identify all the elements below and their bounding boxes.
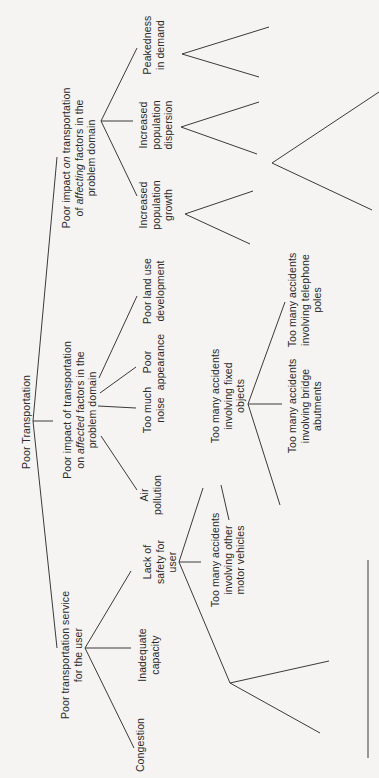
node-label-line: Too much bbox=[141, 387, 154, 433]
node-label-line: Poor impact of transportation bbox=[61, 341, 74, 479]
node-label-line: abutments bbox=[311, 359, 324, 454]
node-label-line: Congestion bbox=[134, 718, 147, 772]
edge-root-spine-lower bbox=[33, 421, 57, 648]
node-label-line: Too many accidents bbox=[286, 253, 299, 348]
node-label-line: of affecting factors in the bbox=[73, 88, 86, 229]
edge-growth-chevron bbox=[185, 191, 253, 244]
node-label-line: Peakedness bbox=[141, 16, 154, 75]
node-label-line: Lack of bbox=[141, 540, 154, 584]
node-label-line: population bbox=[150, 180, 163, 229]
fault-tree-diagram: Poor Transportation Poor impact on trans… bbox=[0, 0, 379, 778]
node-label-line: involving telephone bbox=[299, 253, 312, 348]
edge-affected-to-appearance bbox=[100, 367, 136, 393]
edge-safety-to-fixed-objects bbox=[179, 488, 203, 562]
edge-safety-sub-chevron bbox=[230, 661, 329, 733]
node-label: Poor Transportation bbox=[20, 375, 33, 469]
node-label-line: Too many accidents bbox=[209, 513, 222, 608]
edge-dispersion-chevron bbox=[181, 102, 259, 154]
node-label-line: dispersion bbox=[162, 100, 175, 149]
node-label-line: Increased bbox=[137, 100, 150, 149]
node-label-line: population bbox=[150, 100, 163, 149]
edge-root-spine-upper bbox=[33, 157, 57, 421]
node-label-line: in demand bbox=[153, 16, 166, 75]
edge-affected-to-air bbox=[101, 436, 137, 490]
node-label-line: involving bridge bbox=[299, 359, 312, 454]
node-label-line: Poor bbox=[141, 334, 154, 390]
edge-peakedness-chevron bbox=[182, 27, 269, 77]
edge-affected-to-land-use bbox=[99, 296, 137, 378]
edge-big-chevron bbox=[272, 92, 379, 210]
node-label-line: capacity bbox=[148, 628, 161, 682]
node-label-line: problem domain bbox=[86, 341, 99, 479]
node-label-line: on affected factors in the bbox=[74, 341, 87, 479]
node-label-line: objects bbox=[234, 349, 247, 444]
edge-affected-to-noise bbox=[98, 406, 136, 408]
node-label-line: Poor transportation service bbox=[59, 591, 72, 719]
node-label-line: for the user bbox=[71, 591, 84, 719]
node-label-line: Too many accidents bbox=[286, 359, 299, 454]
node-label-line: growth bbox=[162, 180, 175, 229]
node-label-line: pollution bbox=[150, 475, 163, 515]
node-label-line: Poor land use bbox=[141, 258, 154, 324]
node-label-line: poles bbox=[311, 253, 324, 348]
edge-service-to-congestion bbox=[85, 648, 134, 748]
node-label-line: user bbox=[166, 540, 179, 584]
edge-affecting-to-peakedness bbox=[101, 48, 137, 121]
node-label-line: involving fixed bbox=[222, 349, 235, 444]
node-label-line: Inadequate bbox=[136, 628, 149, 682]
node-label-line: development bbox=[153, 258, 166, 324]
node-label-line: Increased bbox=[137, 180, 150, 229]
node-label-line: motor vehicles bbox=[234, 513, 247, 608]
node-label-line: involving other bbox=[222, 513, 235, 608]
node-label-line: appearance bbox=[153, 334, 166, 390]
node-label-line: Poor impact on transportation bbox=[60, 88, 73, 229]
edge-fixed-to-telephone bbox=[248, 302, 285, 404]
edge-fixed-to-unlabeled bbox=[248, 404, 280, 505]
edge-affecting-to-growth bbox=[101, 121, 137, 196]
node-label-line: Air bbox=[138, 475, 151, 515]
node-label-line: safety for bbox=[154, 540, 167, 584]
edge-service-to-safety bbox=[85, 571, 131, 648]
node-label-line: problem domain bbox=[85, 88, 98, 229]
node-label-line: noise bbox=[153, 387, 166, 433]
node-label-line: Too many accidents bbox=[209, 349, 222, 444]
